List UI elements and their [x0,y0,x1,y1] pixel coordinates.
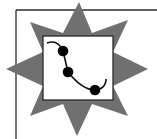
chart-badge-icon [0,0,157,139]
inner-square [43,36,113,100]
data-point [58,46,69,57]
data-point [90,85,101,96]
data-point [63,67,74,78]
